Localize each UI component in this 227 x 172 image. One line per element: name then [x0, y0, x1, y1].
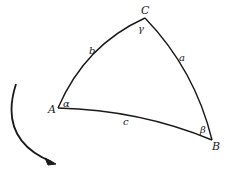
- side-label-b: b: [89, 45, 95, 56]
- vertex-label-c: C: [141, 4, 150, 17]
- side-c-arc: [58, 108, 212, 140]
- side-b-arc: [58, 18, 145, 108]
- angle-label-beta: β: [199, 124, 206, 135]
- rotation-arrow-arc: [12, 84, 53, 162]
- angle-label-gamma: γ: [138, 23, 144, 34]
- angle-label-alpha: α: [63, 98, 70, 109]
- rotation-arrowhead-icon: [45, 158, 56, 165]
- side-label-c: c: [123, 116, 129, 127]
- side-label-a: a: [179, 52, 185, 63]
- spherical-triangle-diagram: C A B b a c α β γ: [0, 0, 227, 172]
- vertex-label-a: A: [47, 103, 56, 116]
- vertex-label-b: B: [211, 140, 220, 153]
